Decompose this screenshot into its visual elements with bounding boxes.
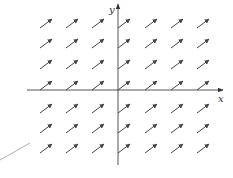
slope-arrow xyxy=(171,144,183,153)
slope-arrow xyxy=(145,104,157,113)
direction-field-diagram: x y xyxy=(0,0,233,178)
slope-arrow xyxy=(145,124,157,133)
slope-arrow xyxy=(66,81,78,90)
slope-arrow xyxy=(92,144,104,153)
slope-arrow xyxy=(92,19,104,28)
slope-arrow xyxy=(197,81,209,90)
slope-arrow xyxy=(40,81,52,90)
slope-arrow xyxy=(171,60,183,69)
slope-arrow xyxy=(118,104,130,113)
annotation-line xyxy=(0,143,30,160)
slope-arrow xyxy=(145,19,157,28)
slope-arrow xyxy=(197,19,209,28)
slope-arrow xyxy=(171,124,183,133)
slope-arrow xyxy=(66,39,78,48)
slope-arrow xyxy=(145,39,157,48)
slope-arrow xyxy=(118,144,130,153)
slope-arrow xyxy=(197,39,209,48)
slope-arrow xyxy=(197,104,209,113)
slope-arrow xyxy=(197,60,209,69)
slope-arrow xyxy=(171,19,183,28)
slope-arrow xyxy=(197,144,209,153)
slope-arrow xyxy=(118,81,130,90)
slope-arrow xyxy=(118,60,130,69)
slope-arrow xyxy=(66,19,78,28)
slope-arrow xyxy=(118,19,130,28)
slope-arrow xyxy=(92,124,104,133)
slope-arrow xyxy=(66,144,78,153)
slope-arrows xyxy=(40,19,209,153)
slope-arrow xyxy=(66,104,78,113)
slope-arrow xyxy=(40,60,52,69)
slope-arrow xyxy=(171,104,183,113)
slope-arrow xyxy=(171,39,183,48)
slope-arrow xyxy=(92,104,104,113)
slope-arrow xyxy=(66,124,78,133)
slope-arrow xyxy=(118,124,130,133)
slope-arrow xyxy=(171,81,183,90)
slope-arrow xyxy=(145,60,157,69)
slope-arrow xyxy=(145,144,157,153)
slope-arrow xyxy=(40,19,52,28)
slope-arrow xyxy=(40,144,52,153)
slope-arrow xyxy=(118,39,130,48)
slope-arrow xyxy=(197,124,209,133)
slope-arrow xyxy=(40,39,52,48)
x-axis-label: x xyxy=(218,93,224,104)
slope-arrow xyxy=(40,104,52,113)
slope-arrow xyxy=(66,60,78,69)
slope-arrow xyxy=(92,60,104,69)
slope-arrow xyxy=(145,81,157,90)
y-axis-label: y xyxy=(108,4,115,15)
slope-arrow xyxy=(40,124,52,133)
slope-arrow xyxy=(92,39,104,48)
slope-arrow xyxy=(92,81,104,90)
